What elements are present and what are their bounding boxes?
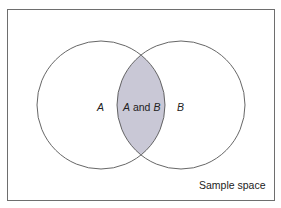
set-a-label: A xyxy=(96,101,104,113)
sample-space-label: Sample space xyxy=(199,179,266,191)
intersection-label: A and B xyxy=(122,101,160,113)
venn-diagram: A A and B B Sample space xyxy=(0,0,281,208)
intersection-label-b: B xyxy=(153,101,160,113)
intersection-label-a: A xyxy=(122,101,130,113)
intersection-label-and: and xyxy=(130,101,153,113)
set-b-label: B xyxy=(177,101,184,113)
